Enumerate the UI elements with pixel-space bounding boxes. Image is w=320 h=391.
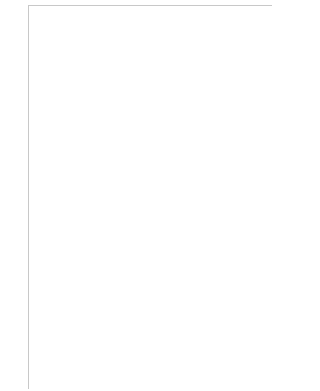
knitting-chart-grid bbox=[28, 5, 272, 389]
